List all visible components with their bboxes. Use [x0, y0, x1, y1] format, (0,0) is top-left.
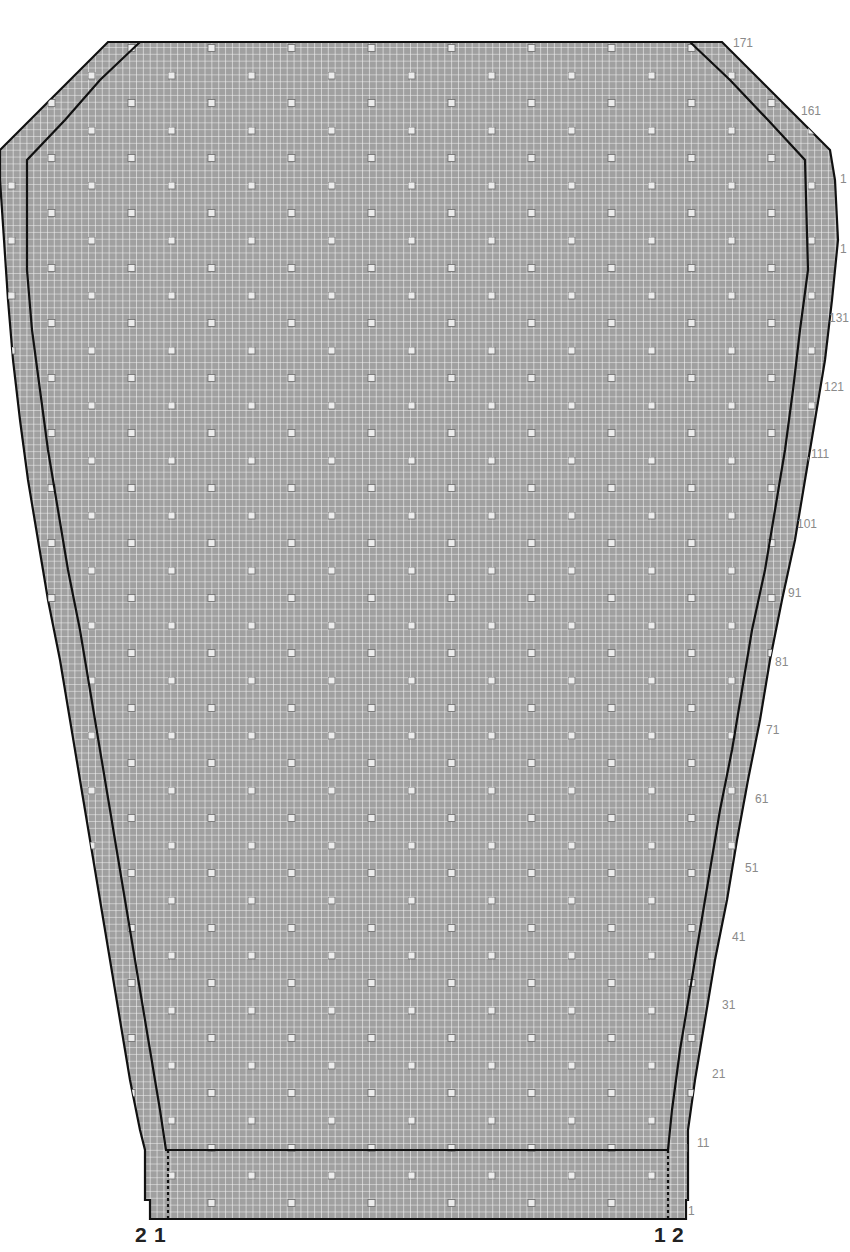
row-label-121: 121 [824, 381, 844, 393]
row-label-151: 1 [840, 173, 847, 185]
row-label-1: 1 [688, 1205, 695, 1217]
outer-shape-size-2 [0, 42, 838, 1219]
row-label-131: 131 [829, 312, 849, 324]
row-label-101: 101 [797, 518, 817, 530]
size-label-left-2: 2 [135, 1224, 147, 1245]
row-label-91: 91 [788, 587, 801, 599]
row-label-21: 21 [712, 1068, 725, 1080]
size-label-right-1: 1 [654, 1224, 666, 1245]
row-label-61: 61 [755, 793, 768, 805]
row-label-41: 41 [732, 931, 745, 943]
row-label-51: 51 [745, 862, 758, 874]
row-label-171: 171 [733, 37, 753, 49]
row-label-111: 111 [811, 448, 829, 460]
size-label-left-1: 1 [154, 1224, 166, 1245]
row-label-71: 71 [766, 724, 779, 736]
size-label-right-2: 2 [672, 1224, 684, 1245]
row-label-141: 1 [840, 243, 847, 255]
row-label-31: 31 [722, 999, 735, 1011]
row-label-81: 81 [775, 656, 788, 668]
row-label-161: 161 [801, 105, 821, 117]
knitting-chart [0, 0, 850, 1252]
row-label-11: 11 [697, 1137, 709, 1149]
